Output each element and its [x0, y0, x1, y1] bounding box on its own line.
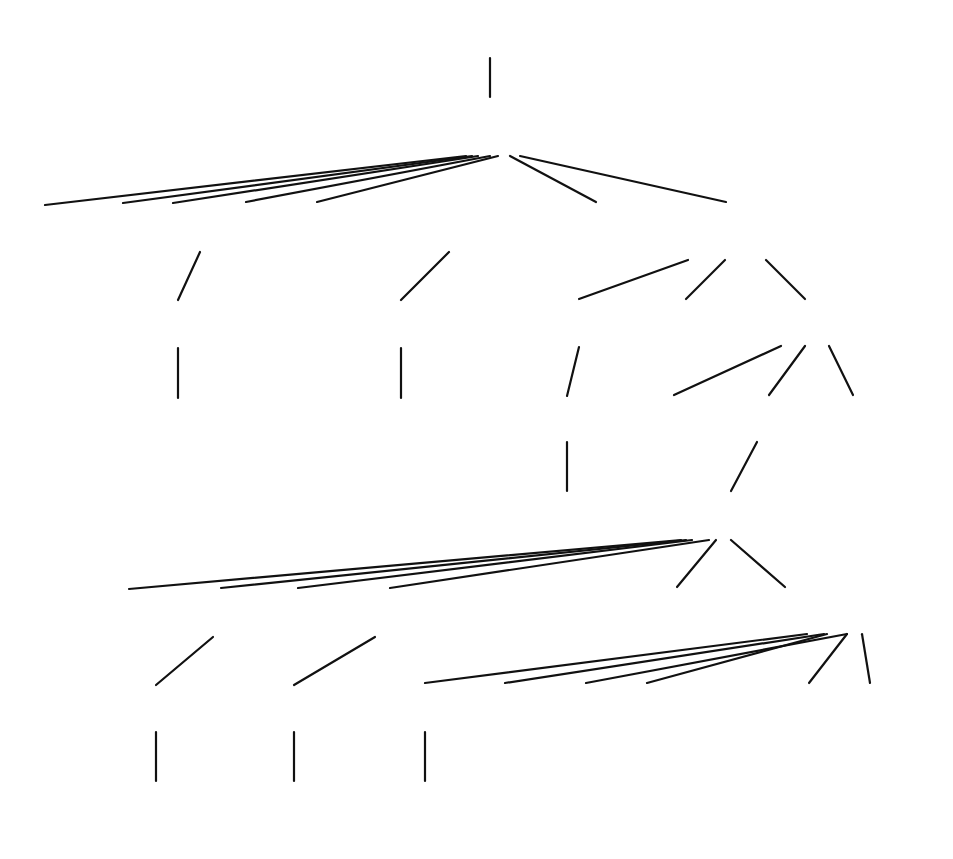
tree-edges-lower: [0, 0, 953, 859]
